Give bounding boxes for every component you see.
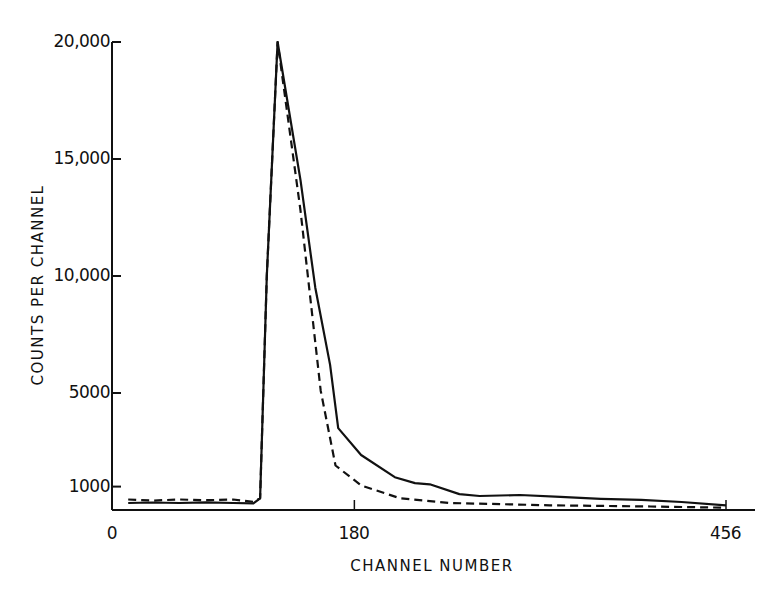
y-axis-label: COUNTS PER CHANNEL <box>29 185 47 386</box>
x-tick-label: 456 <box>710 523 741 543</box>
y-tick-label: 5000 <box>69 382 110 402</box>
data-series <box>128 42 726 508</box>
series-dashed-line <box>128 42 726 508</box>
x-tick-label: 180 <box>338 523 369 543</box>
x-axis-label: CHANNEL NUMBER <box>350 557 513 575</box>
y-tick-label: 10,000 <box>54 265 110 285</box>
axes <box>112 42 755 510</box>
series-solid-line <box>128 42 726 505</box>
chart-plot-area <box>0 0 779 594</box>
y-tick-label: 15,000 <box>54 148 110 168</box>
y-tick-label: 1000 <box>69 476 110 496</box>
x-tick-label: 0 <box>107 523 117 543</box>
y-tick-label: 20,000 <box>54 31 110 51</box>
